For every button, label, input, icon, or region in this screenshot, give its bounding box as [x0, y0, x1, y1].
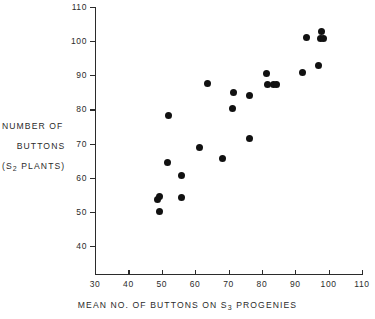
- x-tick-90: [295, 270, 296, 275]
- data-point: [230, 89, 237, 96]
- x-tick-100: [329, 270, 330, 275]
- x-tick-label-90: 90: [280, 279, 310, 289]
- x-axis-title-subscript: 3: [228, 304, 233, 311]
- x-tick-label-80: 80: [247, 279, 277, 289]
- data-point: [204, 80, 211, 87]
- x-tick-40: [128, 270, 129, 275]
- data-point: [164, 159, 171, 166]
- y-axis-title-line-3-post: PLANTS): [18, 161, 65, 171]
- data-point: [229, 105, 236, 112]
- x-tick-label-60: 60: [180, 279, 210, 289]
- x-tick-70: [229, 270, 230, 275]
- x-tick-60: [195, 270, 196, 275]
- x-tick-30: [95, 270, 96, 275]
- scatter-plot-figure: 405060708090100110 30405060708090100110 …: [0, 0, 375, 319]
- y-tick-label-80: 80: [76, 104, 87, 114]
- x-tick-label-110: 110: [347, 279, 375, 289]
- y-axis-title-line-2: BUTTONS: [2, 136, 90, 156]
- data-point: [318, 28, 325, 35]
- x-axis-title-pre: MEAN NO. OF BUTTONS ON S: [78, 300, 228, 310]
- x-tick-label-30: 30: [80, 279, 110, 289]
- x-tick-50: [162, 270, 163, 275]
- plot-data-area: [95, 7, 362, 246]
- y-axis-title-line-1: NUMBER OF: [2, 116, 90, 136]
- x-axis-title: MEAN NO. OF BUTTONS ON S3 PROGENIES: [0, 300, 375, 310]
- x-tick-label-100: 100: [314, 279, 344, 289]
- data-point: [196, 144, 203, 151]
- data-point: [178, 194, 185, 201]
- y-tick-label-90: 90: [76, 70, 87, 80]
- x-tick-110: [362, 270, 363, 275]
- x-axis-title-post: PROGENIES: [233, 300, 297, 310]
- x-tick-label-40: 40: [113, 279, 143, 289]
- y-tick-label-100: 100: [71, 36, 87, 46]
- data-point: [263, 70, 270, 77]
- x-tick-label-70: 70: [214, 279, 244, 289]
- x-tick-label-50: 50: [147, 279, 177, 289]
- data-point: [246, 135, 253, 142]
- y-tick-label-110: 110: [72, 2, 87, 12]
- data-point: [156, 208, 163, 215]
- data-point: [246, 92, 253, 99]
- data-point: [219, 155, 226, 162]
- y-axis-title-line-3-pre: (S: [2, 161, 13, 171]
- y-axis-title-line-3: (S2 PLANTS): [2, 156, 90, 177]
- y-axis-title: NUMBER OF BUTTONS (S2 PLANTS): [2, 116, 90, 177]
- data-point: [320, 35, 327, 42]
- data-point: [178, 172, 185, 179]
- y-tick-40: [90, 246, 95, 247]
- data-point: [156, 193, 163, 200]
- data-point: [165, 112, 172, 119]
- data-point: [303, 34, 310, 41]
- data-point: [299, 69, 306, 76]
- data-point: [273, 81, 280, 88]
- y-tick-label-50: 50: [76, 207, 87, 217]
- x-tick-80: [262, 270, 263, 275]
- y-axis-title-subscript: 2: [13, 165, 18, 172]
- data-point: [315, 62, 322, 69]
- y-tick-label-40: 40: [76, 241, 87, 251]
